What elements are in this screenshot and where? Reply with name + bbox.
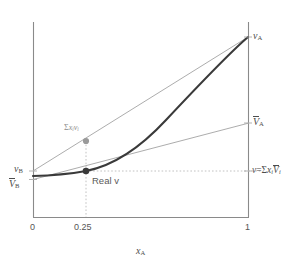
v-a-label: vA: [253, 31, 262, 42]
x-axis-title-subscript: A: [140, 249, 145, 256]
v-b-label: vB: [14, 164, 23, 175]
vbar-b-subscript: B: [15, 182, 19, 189]
x-axis-title: xA: [136, 245, 145, 256]
real-v-point-marker: [83, 168, 90, 175]
vbar-b-label: VB: [9, 178, 20, 190]
sum-xv-point-marker: [83, 138, 89, 144]
sum-xv-label: Σxivi: [64, 124, 79, 132]
v-b-subscript: B: [18, 167, 22, 174]
sum-xv-v-subscript: i: [77, 126, 78, 132]
vbar-a-subscript: A: [259, 120, 264, 127]
vbar-a-label: VA: [253, 116, 264, 128]
x-tick-label-025: 0.25: [74, 222, 92, 232]
v-sum-vbar-subscript: i: [279, 168, 281, 175]
v-sum-equation-label: v=ΣxiVi: [252, 165, 281, 176]
chart-figure: vB VB vA VA v=ΣxiVi Σxivi Real v 0 0.25 …: [0, 0, 302, 272]
x-tick-label-0: 0: [30, 222, 35, 232]
real-volume-curve: [33, 37, 248, 176]
x-tick-label-1: 1: [245, 222, 250, 232]
v-a-subscript: A: [257, 34, 262, 41]
real-v-label: Real v: [92, 175, 119, 186]
